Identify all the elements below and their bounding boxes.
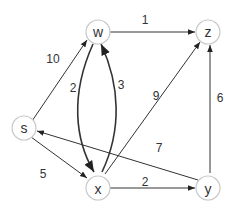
weight-y-s: 7	[156, 141, 163, 155]
weight-x-w: 3	[118, 78, 125, 92]
weight-w-z: 1	[142, 13, 149, 27]
node-w: w	[86, 20, 110, 44]
weight-s-x: 5	[40, 167, 47, 181]
edge-y-s	[37, 131, 198, 180]
svg-text:s: s	[21, 120, 28, 136]
edge-x-z	[105, 42, 200, 174]
edge-w-x	[78, 44, 94, 172]
weight-x-y: 2	[142, 175, 149, 189]
weight-w-x: 2	[70, 81, 77, 95]
node-x: x	[86, 176, 110, 200]
weight-x-z: 9	[153, 89, 160, 103]
node-s: s	[12, 116, 36, 140]
weight-y-z: 6	[217, 91, 224, 105]
node-z: z	[196, 20, 220, 44]
svg-text:z: z	[205, 24, 212, 40]
node-y: y	[196, 176, 220, 200]
svg-text:w: w	[92, 24, 104, 40]
weight-s-w: 10	[46, 52, 60, 66]
svg-text:x: x	[95, 181, 102, 197]
svg-text:y: y	[205, 181, 212, 197]
directed-weighted-graph: 10 5 1 2 3 9 2 7 6 s w z x y	[0, 0, 235, 216]
